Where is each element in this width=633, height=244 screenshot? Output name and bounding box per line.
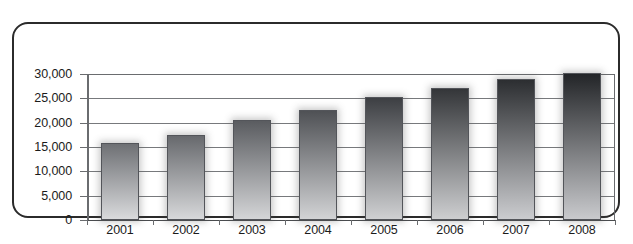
figure-caption-cropped [14, 232, 414, 244]
bar-series [87, 74, 615, 220]
bar-slot [483, 74, 549, 220]
bar-slot [417, 74, 483, 220]
y-axis-tick-label: 5,000 [41, 189, 72, 203]
y-axis-tick-label: 30,000 [34, 67, 72, 81]
bar-2007[interactable] [497, 79, 535, 220]
bar-slot [285, 74, 351, 220]
y-axis-tick [80, 171, 87, 172]
chart-frame: 05,00010,00015,00020,00025,00030,000 200… [12, 22, 620, 218]
bar-2004[interactable] [299, 110, 337, 220]
y-axis-tick-label: 25,000 [34, 91, 72, 105]
y-axis-tick [80, 220, 87, 221]
y-axis-tick-label: 0 [65, 213, 72, 227]
x-axis-tick-label-2006: 2006 [436, 223, 463, 237]
bar-slot [219, 74, 285, 220]
y-axis-labels: 05,00010,00015,00020,00025,00030,000 [14, 74, 80, 220]
x-axis-tick [615, 220, 616, 225]
bar-2002[interactable] [167, 135, 205, 220]
plot-area [87, 74, 615, 220]
y-axis-tick [80, 98, 87, 99]
bar-2003[interactable] [233, 120, 271, 220]
y-axis-tick [80, 74, 87, 75]
y-axis-tick-label: 15,000 [34, 140, 72, 154]
bar-slot [87, 74, 153, 220]
y-axis-tick [80, 147, 87, 148]
x-axis-tick-label-2008: 2008 [568, 223, 595, 237]
bar-slot [351, 74, 417, 220]
y-axis-tick-label: 20,000 [34, 116, 72, 130]
y-axis-tick [80, 123, 87, 124]
bar-2001[interactable] [101, 143, 139, 220]
bar-2008[interactable] [563, 73, 601, 220]
y-axis-tick-label: 10,000 [34, 164, 72, 178]
y-axis-tick [80, 196, 87, 197]
x-axis-tick-label-2007: 2007 [502, 223, 529, 237]
bar-2005[interactable] [365, 97, 403, 220]
bar-slot [549, 74, 615, 220]
bar-slot [153, 74, 219, 220]
bar-2006[interactable] [431, 88, 469, 220]
